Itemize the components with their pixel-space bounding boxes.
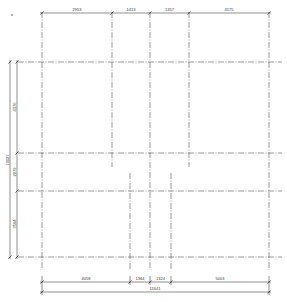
bottom-dim-total: 11641 [150, 286, 162, 291]
bottom-dim-2: 1364 [136, 276, 146, 281]
axis-grid-drawing: 2953 1413 1357 4175 4370 2079 3564 10027… [0, 0, 287, 302]
axis-lines [18, 12, 282, 270]
left-dim-1: 4370 [12, 102, 17, 112]
top-dim-3: 1357 [165, 7, 175, 12]
marker-dot [11, 14, 13, 16]
bottom-dim-4: 5003 [216, 276, 226, 281]
top-dim-4: 4175 [225, 7, 235, 12]
top-dim-1: 2953 [73, 7, 83, 12]
top-dim-2: 1413 [127, 7, 137, 12]
bottom-dim-1: 4058 [82, 276, 92, 281]
left-dim-3: 3564 [12, 219, 17, 229]
bottom-dim-3: 1324 [156, 276, 166, 281]
left-dim-2: 2079 [12, 167, 17, 177]
left-dim-total: 10027 [5, 154, 10, 166]
